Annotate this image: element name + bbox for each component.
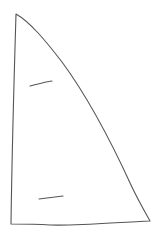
sail-outline [11,14,150,225]
batten-lower [39,196,63,199]
batten-upper [30,81,52,86]
sail-drawing [0,0,162,238]
